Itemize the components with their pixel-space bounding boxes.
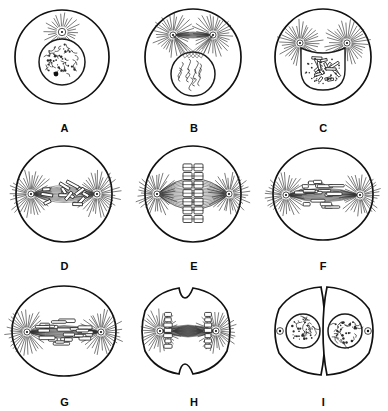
mitosis-figure: A B (0, 0, 388, 411)
panel-label-b: B (190, 123, 198, 134)
panel-b-illustration (129, 0, 258, 122)
panel-f: F (259, 138, 388, 276)
panel-h: H (129, 276, 258, 411)
panel-label-g: G (60, 397, 69, 408)
panel-f-illustration (259, 138, 388, 260)
panel-b: B (129, 0, 258, 138)
panel-i: I (259, 276, 388, 411)
panel-d: D (0, 138, 129, 276)
chromosome-mass-h-right (205, 312, 212, 348)
panel-c: C (259, 0, 388, 138)
panel-d-illustration (0, 138, 129, 260)
panel-c-illustration (259, 0, 388, 122)
panel-grid: A B (0, 0, 388, 411)
panel-g: G (0, 276, 129, 411)
panel-a: A (0, 0, 129, 138)
nucleus-a (39, 39, 85, 85)
panel-label-f: F (320, 261, 327, 272)
panel-label-d: D (61, 261, 69, 272)
panel-label-a: A (61, 123, 69, 134)
panel-h-illustration (129, 276, 258, 396)
panel-e: E (129, 138, 258, 276)
dissolving-nucleus-c (301, 48, 345, 90)
daughter-cell-left (275, 287, 325, 375)
nucleus-b (171, 52, 215, 96)
panel-label-h: H (190, 397, 198, 408)
chromosome-mass-h-left (164, 312, 173, 348)
panel-e-illustration (129, 138, 258, 260)
panel-i-illustration (259, 276, 388, 396)
daughter-cell-right (323, 287, 373, 375)
panel-a-illustration (0, 0, 129, 122)
panel-g-illustration (0, 276, 129, 396)
panel-label-e: E (190, 261, 198, 272)
panel-label-i: I (322, 397, 325, 408)
panel-label-c: C (319, 123, 327, 134)
